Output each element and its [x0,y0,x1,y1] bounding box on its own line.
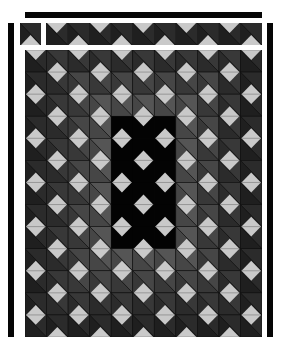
top-bar [25,12,262,18]
left-bar [8,23,14,337]
right-bar [267,23,273,337]
top-strip [46,23,262,45]
corner-square [20,23,41,45]
quilt-grid [25,50,262,337]
